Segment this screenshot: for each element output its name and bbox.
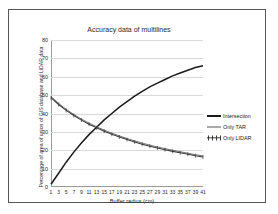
- legend-item[interactable]: Only LIDAR: [207, 133, 278, 142]
- y-tick-label: 10: [32, 166, 48, 172]
- series-lines: [51, 40, 203, 187]
- legend-label: Only LIDAR: [223, 135, 251, 141]
- chart-frame: Accuracy data of multilines Percentage o…: [8, 9, 266, 203]
- legend-swatch-icon: [207, 112, 221, 119]
- y-tick-label: 50: [32, 92, 48, 98]
- x-axis-title: Buffer radius (cm): [87, 198, 177, 204]
- y-tick-label: 30: [32, 129, 48, 135]
- legend-swatch-icon: [207, 134, 221, 141]
- y-tick-label: 80: [32, 37, 48, 43]
- chart-title: Accuracy data of multilines: [49, 26, 209, 33]
- legend-item[interactable]: Only TAR: [207, 122, 278, 131]
- series-line: [51, 66, 203, 185]
- y-tick-label: 70: [32, 55, 48, 61]
- legend-swatch-icon: [207, 123, 221, 130]
- chart-legend: IntersectionOnly TAROnly LIDAR: [207, 111, 278, 144]
- plot-area: [51, 40, 203, 187]
- y-tick-label: 60: [32, 74, 48, 80]
- y-tick-label: 20: [32, 147, 48, 153]
- x-tick-label: 41: [198, 189, 208, 195]
- legend-label: Intersection: [223, 113, 251, 119]
- y-tick-label: 40: [32, 111, 48, 117]
- series-line: [51, 97, 203, 156]
- series-line: [51, 98, 203, 157]
- legend-label: Only TAR: [223, 124, 246, 130]
- legend-item[interactable]: Intersection: [207, 111, 278, 120]
